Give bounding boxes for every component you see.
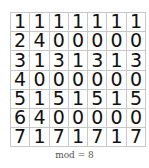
table-cell: 1 [107,51,126,70]
table-cell: 5 [88,90,107,109]
table-cell: 0 [50,32,69,51]
table-cell: 0 [88,109,107,128]
table-cell: 7 [11,128,30,147]
table-cell: 0 [127,32,146,51]
modular-power-table: 1 1 1 1 1 1 1 2 4 0 0 0 0 0 3 1 3 1 3 1 … [10,12,146,147]
table-cell: 1 [30,13,49,32]
table-cell: 1 [69,13,88,32]
table-cell: 2 [11,32,30,51]
table-cell: 1 [107,90,126,109]
table-cell: 0 [107,32,126,51]
table-cell: 1 [127,13,146,32]
table-cell: 1 [69,90,88,109]
table-cell: 5 [50,90,69,109]
table-cell: 4 [11,71,30,90]
table-cell: 0 [127,109,146,128]
table-cell: 3 [88,51,107,70]
table-cell: 3 [11,51,30,70]
table-cell: 7 [50,128,69,147]
table-cell: 7 [127,128,146,147]
table-cell: 0 [88,71,107,90]
table-cell: 0 [88,32,107,51]
table-cell: 5 [127,90,146,109]
table-cell: 1 [11,13,30,32]
table-cell: 0 [107,71,126,90]
table-cell: 0 [50,109,69,128]
table-cell: 6 [11,109,30,128]
table-cell: 3 [127,51,146,70]
table-cell: 3 [50,51,69,70]
table-cell: 0 [69,109,88,128]
table-cell: 0 [30,71,49,90]
table-cell: 1 [107,128,126,147]
table-cell: 1 [69,51,88,70]
table-cell: 0 [69,71,88,90]
table-cell: 1 [69,128,88,147]
table-cell: 1 [107,13,126,32]
table-cell: 0 [107,109,126,128]
caption: mod = 8 [0,150,149,160]
table-cell: 4 [30,32,49,51]
table-cell: 1 [88,13,107,32]
table-cell: 1 [50,13,69,32]
table-cell: 0 [127,71,146,90]
table-cell: 1 [30,51,49,70]
table-cell: 1 [30,128,49,147]
table-cell: 7 [88,128,107,147]
table-cell: 4 [30,109,49,128]
table-cell: 0 [69,32,88,51]
table-cell: 5 [11,90,30,109]
table-cell: 1 [30,90,49,109]
table-cell: 0 [50,71,69,90]
